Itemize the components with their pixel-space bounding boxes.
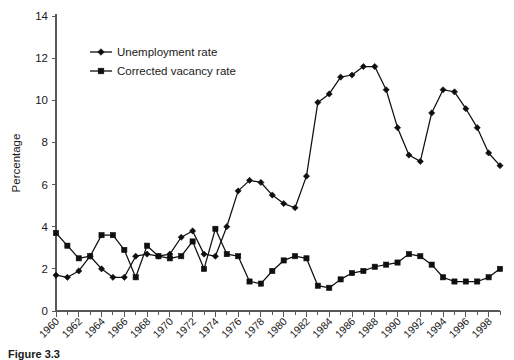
square-marker [384, 262, 389, 267]
x-axis-tick-label: 1992 [401, 315, 426, 340]
x-axis-tick-label: 1982 [287, 315, 312, 340]
diamond-marker [417, 158, 423, 164]
diamond-marker [372, 63, 378, 69]
diamond-marker [121, 274, 127, 280]
square-marker [372, 264, 377, 269]
diamond-marker [212, 253, 218, 259]
square-marker [179, 254, 184, 259]
square-marker [65, 243, 70, 248]
square-marker [213, 226, 218, 231]
diamond-marker [292, 205, 298, 211]
square-marker [190, 239, 195, 244]
plot-area [53, 63, 503, 290]
square-marker [440, 275, 445, 280]
x-axis-tick-label: 1964 [82, 315, 107, 340]
x-axis-tick-label: 1972 [173, 315, 198, 340]
y-axis-tick-label: 4 [42, 221, 49, 233]
y-axis-tick-label: 14 [35, 10, 48, 22]
square-marker [406, 252, 411, 257]
x-axis: 1960196219641966196819701972197419761978… [36, 311, 500, 340]
y-axis-tick-label: 0 [42, 305, 48, 317]
square-marker [224, 252, 229, 257]
x-axis-tick-label: 1970 [150, 315, 175, 340]
series-2 [53, 226, 502, 290]
square-marker [99, 233, 104, 238]
figure-caption: Figure 3.3 [8, 348, 60, 360]
diamond-marker [133, 253, 139, 259]
legend-entry-1: Unemployment rate [90, 46, 217, 58]
square-marker [76, 256, 81, 261]
square-marker [156, 254, 161, 259]
y-axis: 02468101214 [35, 10, 56, 317]
square-marker [53, 230, 58, 235]
y-axis-title: Percentage [10, 134, 22, 193]
square-marker [167, 256, 172, 261]
square-marker [292, 254, 297, 259]
x-axis-tick-label: 1968 [127, 315, 152, 340]
square-marker [270, 268, 275, 273]
y-axis-tick-label: 10 [35, 94, 48, 106]
x-axis-tick-label: 1962 [59, 315, 84, 340]
x-axis-tick-label: 1966 [105, 315, 130, 340]
diamond-marker [224, 224, 230, 230]
diamond-marker [190, 228, 196, 234]
square-marker [247, 279, 252, 284]
x-axis-tick-label: 1996 [446, 315, 471, 340]
square-marker [144, 243, 149, 248]
y-axis-tick-label: 12 [35, 52, 48, 64]
square-marker [349, 270, 354, 275]
square-marker [315, 283, 320, 288]
square-marker [418, 254, 423, 259]
legend-label-1: Unemployment rate [117, 46, 217, 58]
square-marker [201, 266, 206, 271]
x-axis-tick-label: 1994 [423, 315, 448, 340]
diamond-marker [53, 272, 59, 278]
square-marker [338, 277, 343, 282]
square-marker [429, 262, 434, 267]
y-axis-tick-label: 2 [42, 263, 48, 275]
square-marker [452, 279, 457, 284]
series-1 [53, 63, 503, 280]
unemployment-vacancy-line-chart: 02468101214 1960196219641966196819701972… [0, 0, 514, 360]
diamond-marker [406, 152, 412, 158]
diamond-marker [429, 110, 435, 116]
square-marker [98, 68, 104, 74]
diamond-marker [64, 274, 70, 280]
y-axis-tick-label: 8 [42, 136, 48, 148]
square-marker [88, 254, 93, 259]
square-marker [327, 285, 332, 290]
diamond-marker [383, 87, 389, 93]
diamond-marker [474, 125, 480, 131]
x-axis-tick-label: 1988 [355, 315, 380, 340]
x-axis-tick-label: 1960 [36, 315, 61, 340]
x-axis-tick-label: 1978 [241, 315, 266, 340]
diamond-marker [440, 87, 446, 93]
x-axis-tick-label: 1990 [378, 315, 403, 340]
x-axis-tick-label: 1976 [219, 315, 244, 340]
series-line-1 [56, 67, 500, 278]
x-axis-tick-label: 1986 [332, 315, 357, 340]
diamond-marker [394, 125, 400, 131]
square-marker [497, 266, 502, 271]
x-axis-tick-label: 1980 [264, 315, 289, 340]
square-marker [122, 247, 127, 252]
diamond-marker [201, 251, 207, 257]
square-marker [463, 279, 468, 284]
chart-legend: Unemployment rateCorrected vacancy rate [90, 46, 236, 77]
figure-container: 02468101214 1960196219641966196819701972… [0, 0, 514, 360]
x-axis-tick-label: 1974 [196, 315, 221, 340]
legend-entry-2: Corrected vacancy rate [90, 65, 236, 77]
square-marker [486, 275, 491, 280]
square-marker [304, 256, 309, 261]
square-marker [133, 275, 138, 280]
square-marker [236, 254, 241, 259]
legend-label-2: Corrected vacancy rate [117, 65, 236, 77]
square-marker [361, 268, 366, 273]
square-marker [475, 279, 480, 284]
diamond-marker [303, 173, 309, 179]
x-axis-tick-label: 1984 [310, 315, 335, 340]
square-marker [110, 233, 115, 238]
square-marker [281, 258, 286, 263]
y-axis-tick-label: 6 [42, 179, 48, 191]
diamond-marker [98, 49, 105, 56]
